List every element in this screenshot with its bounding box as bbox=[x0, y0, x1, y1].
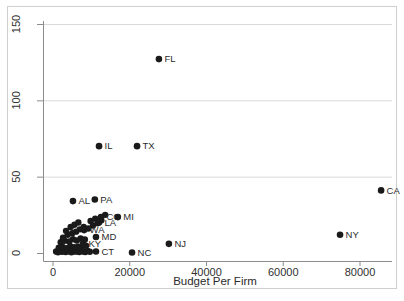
point-label-PA: PA bbox=[100, 194, 113, 205]
data-point-KY bbox=[80, 241, 87, 248]
data-point-FL bbox=[156, 56, 163, 63]
point-label-CA: CA bbox=[387, 185, 401, 196]
point-label-MD: MD bbox=[101, 231, 116, 242]
data-point-TX bbox=[134, 143, 141, 150]
point-label-MI: MI bbox=[123, 211, 134, 222]
data-point bbox=[75, 219, 81, 225]
data-point-NY bbox=[337, 231, 344, 238]
point-label-NY: NY bbox=[346, 229, 360, 240]
data-point-WA bbox=[81, 227, 88, 234]
point-label-IL: IL bbox=[105, 140, 113, 151]
x-tick-label-0: 0 bbox=[50, 266, 56, 278]
scatter-plot-figure: 020000400006000080000 050100150 FLILTXCA… bbox=[0, 0, 404, 301]
x-tick-label-60000: 60000 bbox=[268, 266, 299, 278]
point-label-TX: TX bbox=[143, 140, 156, 151]
point-label-NC: NC bbox=[138, 247, 152, 258]
point-label-FL: FL bbox=[164, 53, 175, 64]
x-tick-label-80000: 80000 bbox=[345, 266, 376, 278]
point-label-KY: KY bbox=[88, 238, 101, 249]
point-label-AL: AL bbox=[78, 195, 90, 206]
x-axis-title: Budget Per Firm bbox=[173, 275, 257, 287]
data-point-PA bbox=[92, 196, 99, 203]
gridlines bbox=[44, 25, 393, 178]
data-point-NJ bbox=[166, 241, 173, 248]
y-tick-label-50: 50 bbox=[10, 171, 22, 183]
y-tick-label-100: 100 bbox=[10, 91, 22, 109]
data-point-AL bbox=[70, 198, 77, 205]
data-point bbox=[87, 249, 93, 255]
point-label-NJ: NJ bbox=[174, 238, 186, 249]
y-axis-ticks: 050100150 bbox=[10, 15, 44, 256]
y-tick-label-0: 0 bbox=[10, 250, 22, 256]
data-points: FLILTXCANYNJNCCTALPACOMILAWAMDKY bbox=[53, 53, 401, 257]
y-tick-label-150: 150 bbox=[10, 15, 22, 33]
data-point-NC bbox=[129, 249, 136, 256]
data-point-IL bbox=[96, 143, 103, 150]
scatter-plot: 020000400006000080000 050100150 FLILTXCA… bbox=[0, 0, 404, 301]
x-tick-label-20000: 20000 bbox=[114, 266, 145, 278]
data-point-CA bbox=[378, 187, 385, 194]
point-label-CT: CT bbox=[101, 246, 114, 257]
point-label-LA: LA bbox=[105, 217, 117, 228]
